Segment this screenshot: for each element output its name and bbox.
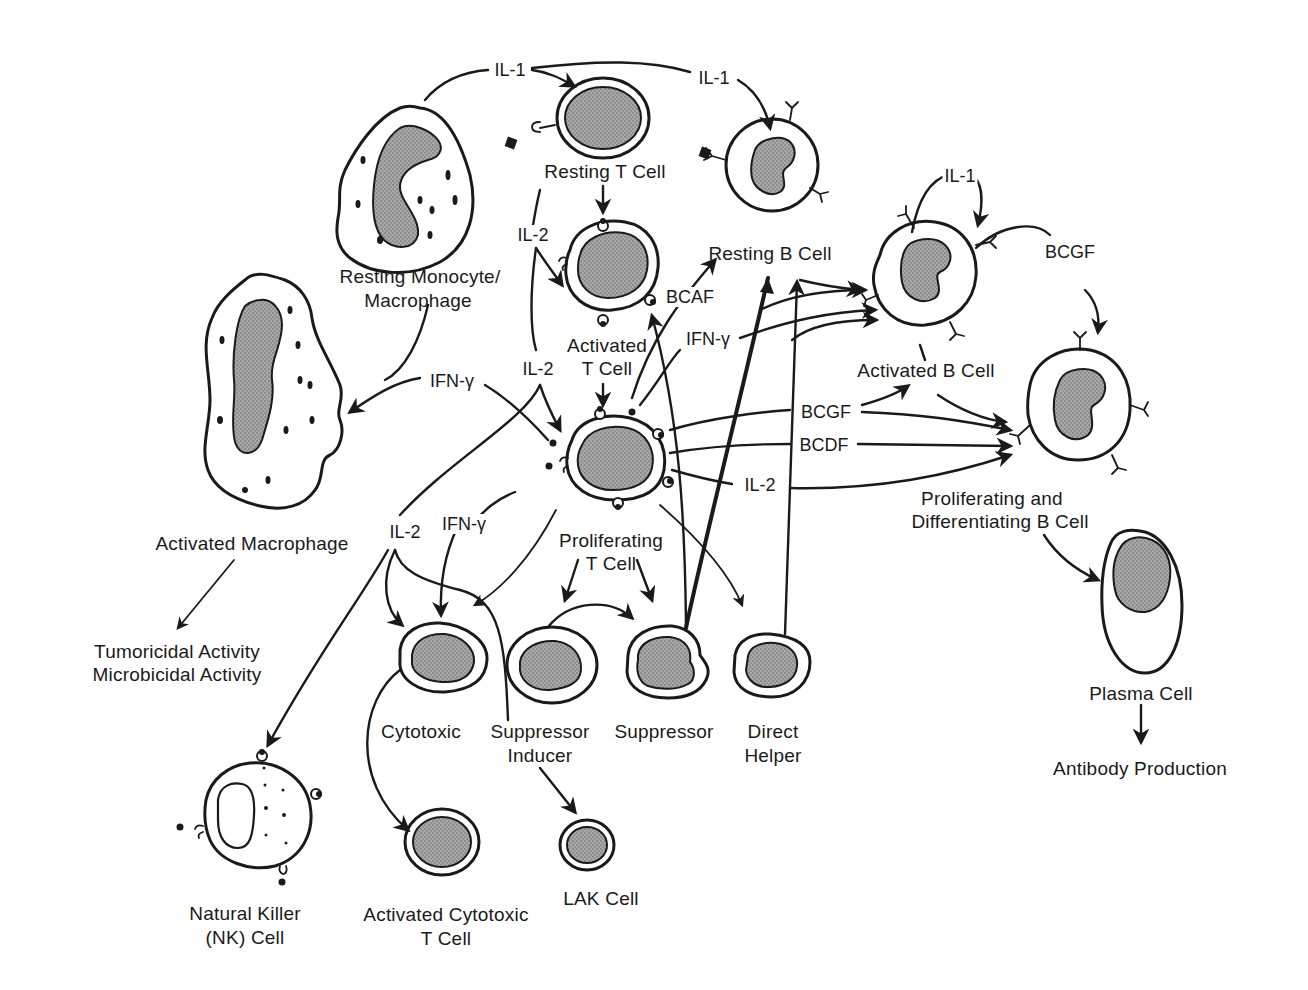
factor-bcdf: BCDF (798, 435, 851, 455)
label-activated-macrophage: Activated Macrophage (155, 533, 348, 555)
immune-diagram-canvas (0, 0, 1308, 990)
label-lak: LAK Cell (563, 888, 639, 910)
label-activated-cytotoxic-2: T Cell (421, 928, 471, 950)
cell-plasma (1102, 530, 1182, 673)
factor-ifn-cytotoxic: IFN-γ (440, 514, 488, 534)
label-direct-helper-1: Direct (748, 721, 799, 743)
cell-resting-t (505, 78, 649, 158)
label-resting-t: Resting T Cell (544, 161, 665, 183)
cell-activated-macrophage (205, 274, 342, 508)
factor-il2-upper: IL-2 (515, 225, 550, 245)
label-plasma: Plasma Cell (1089, 683, 1193, 705)
label-proliferating-t-1: Proliferating (559, 530, 663, 552)
label-activated-b: Activated B Cell (857, 360, 994, 382)
factor-bcaf: BCAF (664, 287, 716, 307)
label-resting-b: Resting B Cell (708, 243, 831, 265)
factor-ifn-macrophage: IFN-γ (428, 371, 476, 391)
label-cytotoxic: Cytotoxic (381, 721, 461, 743)
cell-resting-b (699, 102, 828, 211)
factor-ifn-activated-b: IFN-γ (684, 329, 732, 349)
factor-il1-activated-b: IL-1 (942, 166, 977, 186)
label-activated-cytotoxic-1: Activated Cytotoxic (363, 904, 528, 926)
label-prolif-diff-b-1: Proliferating and (921, 488, 1063, 510)
label-suppressor-inducer-1: Suppressor (490, 721, 589, 743)
cell-activated-t (559, 218, 658, 327)
factor-il1-top-right: IL-1 (696, 68, 731, 88)
label-nk-2: (NK) Cell (206, 927, 285, 949)
cell-suppressor-inducer (507, 627, 597, 703)
label-microbicidal: Microbicidal Activity (93, 664, 262, 686)
label-suppressor-inducer-2: Inducer (508, 745, 573, 767)
cell-nk (177, 749, 323, 886)
label-prolif-diff-b-2: Differentiating B Cell (911, 511, 1088, 533)
label-tumoricidal: Tumoricidal Activity (94, 641, 260, 663)
cell-proliferating-t (546, 406, 674, 510)
cell-resting-monocyte (337, 106, 473, 272)
cell-lak (560, 820, 614, 870)
label-proliferating-t-2: T Cell (586, 553, 636, 575)
factor-il2-right: IL-2 (742, 475, 777, 495)
cell-prolif-diff-b (1010, 332, 1148, 474)
cell-suppressor (627, 626, 708, 698)
factor-bcgf-right: BCGF (1043, 242, 1097, 262)
cell-cytotoxic (400, 623, 487, 692)
factor-bcgf-middle: BCGF (799, 402, 853, 422)
cell-direct-helper (734, 634, 810, 697)
label-direct-helper-2: Helper (744, 745, 801, 767)
label-activated-t-2: T Cell (582, 358, 632, 380)
label-nk-1: Natural Killer (189, 903, 301, 925)
label-suppressor: Suppressor (614, 721, 713, 743)
label-antibody-production: Antibody Production (1053, 758, 1227, 780)
factor-il1-top-left: IL-1 (492, 60, 527, 80)
cell-activated-b (862, 206, 996, 340)
cell-activated-cytotoxic-t (405, 809, 479, 875)
label-resting-monocyte-2: Macrophage (364, 290, 472, 312)
factor-il2-left: IL-2 (387, 522, 422, 542)
label-activated-t-1: Activated (567, 335, 647, 357)
label-resting-monocyte-1: Resting Monocyte/ (340, 266, 501, 288)
factor-il2-middle: IL-2 (520, 359, 555, 379)
